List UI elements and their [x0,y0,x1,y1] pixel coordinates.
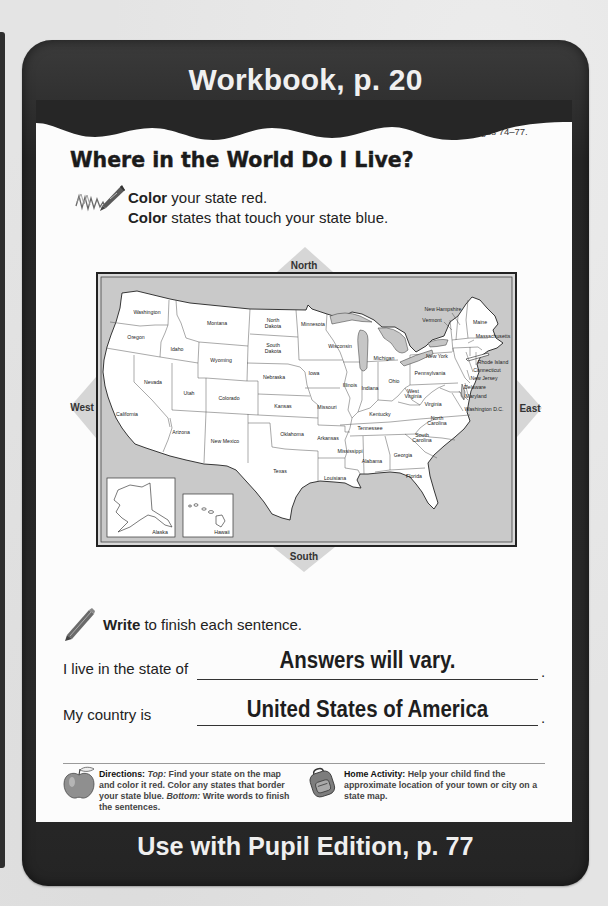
backpack-icon [306,766,338,799]
notes-divider [63,763,545,764]
state-label-pennsylvania: Pennsylvania [415,370,446,376]
sentence-1-answer[interactable]: Answers will vary. [216,646,519,674]
directions-label: Directions: [99,769,145,779]
state-label-minnesota: Minnesota [301,321,325,327]
directions-top-label: Top: [147,769,166,779]
sentence-1-blank-line [197,679,538,680]
home-activity-label: Home Activity: [344,769,405,779]
state-label-connecticut: Connecticut [473,367,501,373]
compass-south-label: South [290,551,318,562]
state-label-delaware: Delaware [464,384,486,390]
state-label-wisconsin: Wisconsin [328,343,352,349]
sentence-2-blank-line [197,725,538,726]
workbook-page: Workbook, p. 20 Use with Pages 74–77. Wh… [0,0,608,906]
sentence-2-answer[interactable]: United States of America [216,695,519,723]
state-label-washington: Washington [133,309,160,315]
state-label-nebraska: Nebraska [263,374,285,380]
directions-bottom-label: Bottom: [166,791,200,801]
state-label-colorado: Colorado [218,395,239,401]
sentence-1-prompt: I live in the state of [63,660,188,678]
state-label-texas: Texas [273,468,287,474]
write-verb: Write [103,616,140,633]
write-instruction-text: to finish each sentence. [140,616,302,633]
state-label-massachusetts: Massachusetts [476,333,511,339]
compass-north-label: North [291,260,318,271]
state-label-arizona: Arizona [172,429,190,435]
directions-note: Directions: Top: Find your state on the … [99,769,299,813]
state-label-louisiana: Louisiana [324,475,346,481]
state-label-new-jersey: New Jersey [470,375,498,381]
state-label-washington-dc: Washington D.C. [464,406,503,412]
write-instruction: Write to finish each sentence. [103,616,302,634]
state-label-wyoming: Wyoming [210,357,232,363]
state-label-arkansas: Arkansas [317,435,339,441]
state-label-north-dakota-2: Dakota [265,323,282,329]
state-label-maryland: Maryland [465,393,486,399]
state-label-mississippi: Mississippi [337,448,362,454]
state-label-missouri: Missouri [317,404,336,410]
state-label-hawaii: Hawaii [214,529,230,535]
state-label-kansas: Kansas [274,403,292,409]
state-label-alabama: Alabama [362,458,383,464]
state-label-nevada: Nevada [144,379,162,385]
sentence-1-period: . [541,663,545,681]
state-label-west-virginia-2: Virginia [404,393,421,399]
state-label-florida: Florida [406,473,422,479]
compass-west-label: West [70,402,94,413]
state-label-new-york: New York [426,353,448,359]
footer-reference: Use with Pupil Edition, p. 77 [31,829,581,863]
state-label-oregon: Oregon [127,334,144,340]
state-label-maine: Maine [473,319,487,325]
apple-icon [62,766,96,800]
us-map: Washington Oregon Idaho Montana North Da… [96,272,517,547]
sentence-2-prompt: My country is [63,706,151,724]
state-label-georgia: Georgia [394,452,413,458]
state-label-new-hampshire: New Hampshire [425,306,462,312]
state-label-indiana: Indiana [361,385,378,391]
state-label-michigan: Michigan [374,355,395,361]
state-label-north-carolina-2: Carolina [427,420,446,426]
state-label-kentucky: Kentucky [369,411,391,417]
state-label-vermont: Vermont [422,317,442,323]
state-label-california: California [116,411,138,417]
state-label-utah: Utah [184,390,195,396]
state-label-illinois: Illinois [343,382,358,388]
compass-east-label: East [519,403,541,414]
home-activity-note: Home Activity: Help your child find the … [344,769,538,802]
pencil-icon [64,608,96,641]
state-label-new-mexico: New Mexico [211,438,239,444]
state-label-ohio: Ohio [389,378,400,384]
state-label-virginia: Virginia [424,401,441,407]
state-label-south-dakota-2: Dakota [265,348,282,354]
state-label-montana: Montana [207,320,227,326]
state-label-iowa: Iowa [309,370,320,376]
state-label-oklahoma: Oklahoma [280,431,304,437]
state-label-tennessee: Tennessee [357,425,382,431]
state-label-rhode-island: Rhode Island [478,359,509,365]
state-label-alaska: Alaska [152,529,168,535]
state-label-south-carolina-2: Carolina [412,437,431,443]
sentence-2-period: . [541,709,545,727]
state-label-idaho: Idaho [171,346,184,352]
